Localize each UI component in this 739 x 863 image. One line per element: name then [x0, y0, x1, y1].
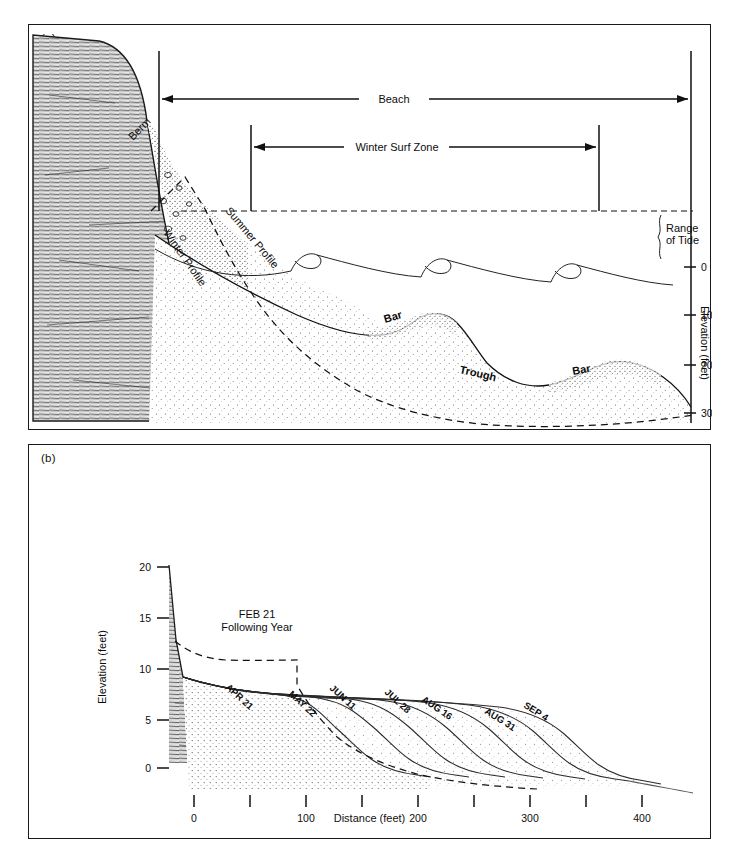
panel-b-ytick-15: 15: [139, 612, 151, 624]
beach-label: Beach: [378, 93, 409, 105]
panel-b-ytick-10: 10: [139, 663, 151, 675]
range-of-tide-brace: [658, 215, 661, 259]
panel-b-y-axis-title: Elevation (feet): [96, 630, 108, 704]
panel-b: (b): [28, 444, 711, 839]
range-of-tide-label-line1: Range: [666, 222, 698, 234]
panel-b-ytick-20: 20: [139, 561, 151, 573]
panel-a-ytick-30: 30: [701, 407, 712, 419]
panel-b-x-axis-title: Distance (feet): [29, 812, 710, 824]
winter-surf-zone-arrow: [251, 125, 599, 211]
beach-extent-arrow: [162, 95, 688, 103]
feb21-label-line1: FEB 21: [239, 608, 276, 620]
panel-a-drawing: Beach Winter Surf Zone Berm Winter Profi…: [29, 25, 712, 431]
feb21-label-line2: Following Year: [221, 621, 293, 633]
panel-b-ytick-5: 5: [145, 714, 151, 726]
panel-b-ytick-0: 0: [145, 762, 151, 774]
panel-b-drawing: 20 15 10 5 0 Elevation (feet): [29, 445, 712, 840]
figure-root: (a): [0, 0, 739, 863]
panel-a-ytick-0: 0: [701, 261, 707, 273]
panel-a-elevation-axis-title: Elevation (feet): [699, 306, 711, 380]
panel-b-y-axis: 20 15 10 5 0: [139, 561, 169, 774]
winter-surf-zone-label: Winter Surf Zone: [355, 141, 438, 153]
range-of-tide-label-line2: of Tide: [666, 234, 699, 246]
panel-a: (a): [28, 24, 711, 430]
